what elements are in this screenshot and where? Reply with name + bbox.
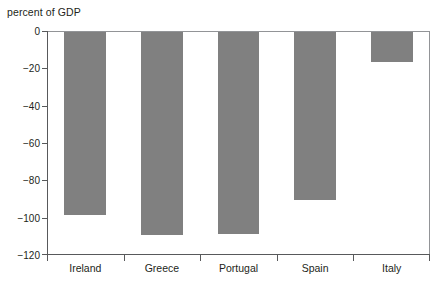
x-category-label-portugal: Portugal (219, 262, 258, 274)
y-axis-title: percent of GDP (7, 6, 81, 18)
y-tick-label: 0 (34, 26, 40, 37)
bar-portugal (218, 32, 260, 234)
y-tick-label: −60 (23, 138, 40, 149)
x-tick-mark (124, 255, 125, 261)
y-tick-label: −120 (17, 250, 40, 261)
y-axis-tick-labels: 0 −20 −40 −60 −80 −100 −120 (0, 31, 40, 255)
x-category-label-spain: Spain (302, 262, 329, 274)
y-tick-mark (42, 218, 47, 219)
y-tick-mark (42, 31, 47, 32)
y-tick-mark (42, 180, 47, 181)
x-tick-mark (353, 255, 354, 261)
x-category-label-ireland: Ireland (69, 262, 101, 274)
plot-area (47, 31, 430, 255)
y-tick-label: −100 (17, 212, 40, 223)
bar-ireland (64, 32, 106, 215)
bar-italy (371, 32, 413, 62)
x-category-label-italy: Italy (382, 262, 401, 274)
x-tick-mark (47, 255, 48, 261)
y-tick-mark (42, 68, 47, 69)
bar-spain (294, 32, 336, 200)
x-tick-mark (429, 255, 430, 261)
y-axis-line (47, 31, 48, 255)
plot-right-border (429, 31, 430, 255)
y-tick-mark (42, 143, 47, 144)
y-tick-label: −20 (23, 63, 40, 74)
x-axis-line (47, 254, 430, 255)
y-tick-mark (42, 106, 47, 107)
y-tick-label: −40 (23, 100, 40, 111)
bar-greece (141, 32, 183, 235)
y-tick-label: −80 (23, 175, 40, 186)
x-category-label-greece: Greece (145, 262, 179, 274)
bar-chart: percent of GDP 0 −20 −40 −60 −80 −100 −1… (0, 0, 442, 286)
x-tick-mark (277, 255, 278, 261)
x-tick-mark (200, 255, 201, 261)
